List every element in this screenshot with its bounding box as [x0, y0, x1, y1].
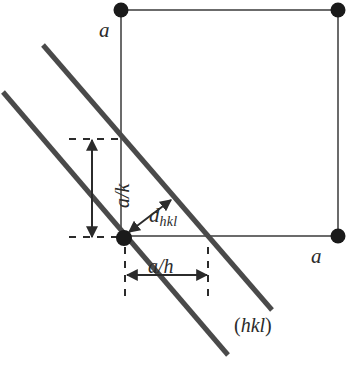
lattice-point-origin: [116, 230, 132, 246]
plane-indices: hkl: [241, 314, 265, 336]
dimension-label-a-over-k: a/k: [112, 184, 132, 208]
d-symbol: d: [149, 203, 160, 227]
dashed-guides: [69, 139, 208, 296]
dimension-label-a-over-h: a/h: [148, 256, 174, 276]
plane-index-label: (hkl): [234, 315, 272, 335]
crystal-plane-diagram: a a a/k a/h dhkl (hkl): [0, 0, 358, 366]
dimension-label-d-hkl: dhkl: [149, 205, 178, 229]
axis-label-a-horizontal: a: [311, 246, 322, 267]
lattice-point-bottom-right: [331, 229, 346, 244]
axis-label-a-vertical: a: [99, 20, 110, 41]
d-subscript: hkl: [160, 214, 178, 229]
close-paren: ): [265, 314, 272, 336]
lattice-point-top-right: [331, 3, 346, 18]
plane-traces: [3, 45, 272, 355]
lattice-point-top-left: [114, 3, 129, 18]
diagram-canvas: [0, 0, 358, 366]
open-paren: (: [234, 314, 241, 336]
